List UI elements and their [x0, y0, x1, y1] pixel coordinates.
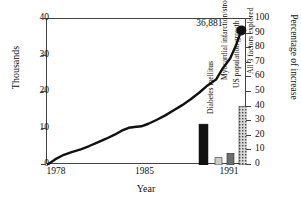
bar-category-label: Myocardial infarction/stroke: [221, 0, 229, 80]
bar-diabetes-mellitus: [199, 124, 208, 165]
plot-area: [46, 18, 246, 164]
y-axis-right-tick-label: 10: [255, 144, 277, 154]
y-axis-left-tick-mark: [41, 55, 46, 56]
y-axis-right-tick-label: 100: [255, 13, 277, 23]
y-axis-right-tick-label: 30: [255, 115, 277, 125]
y-axis-left-tick-mark: [41, 164, 46, 165]
bar-group: [199, 107, 247, 165]
x-axis-tick-label: 1991: [220, 166, 239, 176]
y-axis-right-title: Percentage of increase: [289, 7, 299, 107]
plot-svg: [47, 19, 247, 165]
y-axis-right-tick-mark: [246, 149, 251, 150]
y-axis-right-tick-mark: [246, 76, 251, 77]
y-axis-right-tick-label: 40: [255, 101, 277, 111]
y-axis-right-tick-mark: [246, 106, 251, 107]
bar-myocardial-infarction-stroke: [215, 158, 222, 165]
y-axis-right-tick-mark: [246, 135, 251, 136]
y-axis-right-tick-label: 90: [255, 28, 277, 38]
bar-category-label: Diabetes mellitus: [207, 61, 215, 114]
bar-all-3-factors-explored: [239, 107, 247, 165]
x-axis-title: Year: [46, 183, 246, 194]
y-axis-right-tick-label: 60: [255, 71, 277, 81]
bar-category-label: US population growth: [233, 21, 241, 89]
y-axis-right-tick-label: 20: [255, 130, 277, 140]
y-axis-right-tick-label: 50: [255, 86, 277, 96]
end-point-value-label: 36,881: [196, 18, 222, 28]
y-axis-right-tick-label: 80: [255, 42, 277, 52]
y-axis-right-tick-mark: [246, 120, 251, 121]
y-axis-right-tick-label: 70: [255, 57, 277, 67]
y-axis-right-tick-mark: [246, 91, 251, 92]
x-axis-tick-label: 1985: [135, 166, 154, 176]
y-axis-left-tick-mark: [41, 18, 46, 19]
y-axis-right-tick-mark: [246, 164, 251, 165]
chart-container: Thousands Percentage of increase Year 36…: [0, 0, 301, 208]
bar-us-population-growth: [227, 153, 234, 165]
y-axis-right-tick-label: 0: [255, 159, 277, 169]
y-axis-left-title: Thousands: [10, 33, 21, 103]
x-axis-tick-label: 1978: [47, 166, 66, 176]
bar-category-label: All 3 factors explored: [247, 8, 255, 74]
y-axis-left-tick-mark: [41, 128, 46, 129]
y-axis-left-tick-mark: [41, 91, 46, 92]
